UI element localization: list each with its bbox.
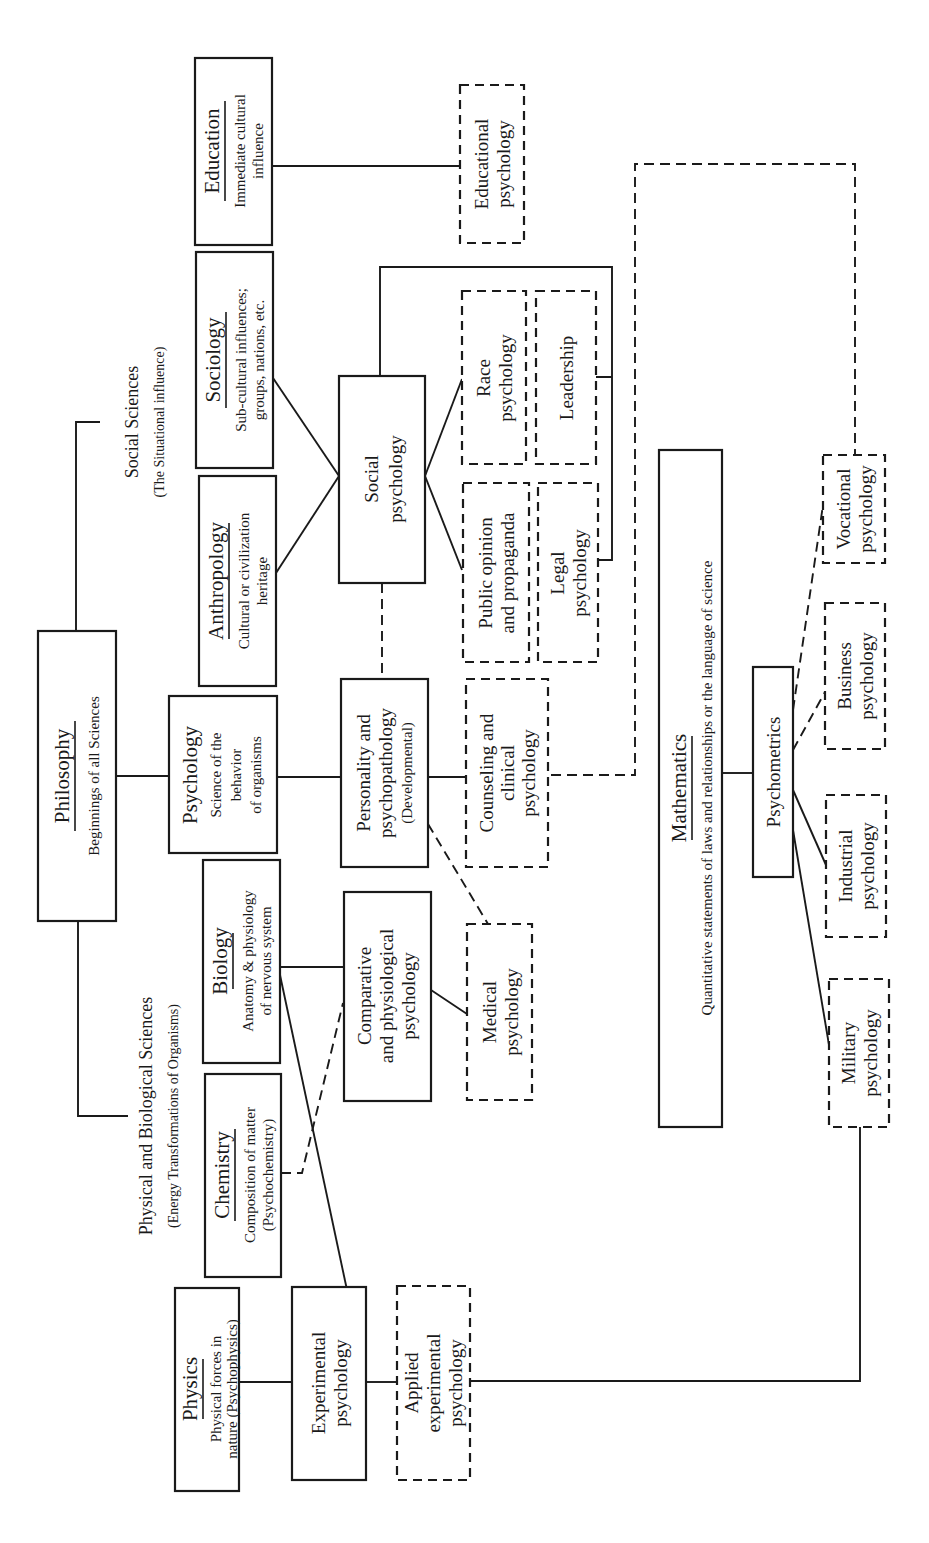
category-subtitle: (The Situational influence) <box>152 346 168 497</box>
node-applied-experimental: Applied experimental psychology <box>397 1286 470 1480</box>
node-label-line: Leadership <box>556 336 577 420</box>
node-description-line: behavior <box>228 749 244 801</box>
node-label-line: psychology <box>501 968 522 1056</box>
edge-psychometrics-industrial <box>793 790 826 865</box>
node-label-line: Comparative <box>354 947 375 1045</box>
node-label-line: psychology <box>445 1339 466 1427</box>
node-label-line: (Developmental) <box>399 722 416 824</box>
node-description: Quantitative statements of laws and rela… <box>699 560 715 1015</box>
node-description-line: Sub-cultural influences; <box>233 288 249 432</box>
node-description-line: Physical forces in <box>208 1335 224 1442</box>
edge-social-psychology-public-opinion <box>425 476 462 570</box>
edge-psychometrics-vocational <box>793 505 823 710</box>
node-comparative: Comparative and physiological psychology <box>344 892 431 1101</box>
node-chemistry: Chemistry Composition of matter (Psychoc… <box>205 1074 281 1277</box>
node-label-line: Social <box>361 455 382 503</box>
edge-philosophy-social-sciences <box>76 422 100 631</box>
node-description-line: Anatomy & physiology <box>240 890 256 1032</box>
node-description-line: influence <box>250 123 266 179</box>
node-description-line: (Psychochemistry) <box>260 1119 277 1231</box>
node-description-line: Immediate cultural <box>232 94 248 208</box>
node-label-line: Legal <box>547 551 568 594</box>
node-description-line: Composition of matter <box>242 1107 258 1243</box>
node-label-line: psychology <box>398 952 419 1040</box>
node-label-line: Military <box>838 1021 859 1084</box>
node-description: Beginnings of all Sciences <box>86 696 102 856</box>
node-title: Anthropology <box>204 522 228 640</box>
node-military: Military psychology <box>829 979 889 1127</box>
node-legal-psychology: Legal psychology <box>538 483 598 662</box>
node-description-line: of organisms <box>248 736 264 814</box>
node-title: Psychology <box>178 726 202 825</box>
node-educational-psychology: Educational psychology <box>460 85 524 243</box>
edge-social-psychology-race <box>425 379 462 476</box>
node-description-line: groups, nations, etc. <box>251 300 267 420</box>
node-social-psychology: Social psychology <box>339 376 425 583</box>
node-business: Business psychology <box>825 603 885 749</box>
category-title: Social Sciences <box>122 366 142 478</box>
node-description-line: heritage <box>254 557 270 606</box>
node-psychometrics: Psychometrics <box>753 667 793 877</box>
node-description-line: Cultural or civilization <box>236 512 252 649</box>
node-vocational: Vocational psychology <box>823 455 885 563</box>
category-subtitle: (Energy Transformations of Organisms) <box>166 1004 182 1228</box>
node-title: Physics <box>178 1357 202 1421</box>
node-title: Sociology <box>201 317 225 403</box>
node-label-line: psychology <box>330 1339 351 1427</box>
node-race-psychology: Race psychology <box>462 291 526 464</box>
edge-psychometrics-business <box>793 692 825 750</box>
node-label-line: Vocational <box>833 469 854 550</box>
node-public-opinion: Public opinion and propaganda <box>463 483 529 662</box>
category-title: Physical and Biological Sciences <box>136 997 156 1235</box>
node-title: Education <box>200 108 224 194</box>
edge-comparative-medical <box>431 990 467 1014</box>
node-description-line: nature (Psychophysics) <box>224 1319 241 1459</box>
node-label-line: psychopathology <box>375 708 396 838</box>
node-title: Chemistry <box>210 1131 234 1219</box>
edge-philosophy-physical-biological <box>78 921 128 1116</box>
node-sociology: Sociology Sub-cultural influences; group… <box>196 252 273 468</box>
node-label-line: Personality and <box>353 714 374 832</box>
node-label-line: psychology <box>495 334 516 422</box>
node-label-line: Psychometrics <box>763 717 784 828</box>
node-psychology: Psychology Science of the behavior of or… <box>169 696 277 853</box>
node-label-line: and physiological <box>376 929 397 1064</box>
node-label-line: and propaganda <box>497 512 518 633</box>
node-medical-psychology: Medical psychology <box>467 924 532 1100</box>
node-label-line: Medical <box>479 981 500 1043</box>
psychology-fields-diagram: Social Sciences (The Situational influen… <box>0 0 929 1543</box>
node-label-line: psychology <box>385 435 406 523</box>
edge-chemistry-comparative <box>281 1003 343 1173</box>
node-label-line: Experimental <box>308 1332 329 1434</box>
node-label-line: Educational <box>471 119 492 210</box>
node-label-line: experimental <box>423 1333 444 1432</box>
node-label-line: psychology <box>518 729 539 817</box>
edge-anthropology-social-psychology <box>276 476 339 573</box>
node-label-line: Business <box>834 642 855 710</box>
node-label-line: Applied <box>401 1352 422 1414</box>
edge-psychometrics-military <box>793 830 829 1045</box>
node-education: Education Immediate cultural influence <box>195 58 272 245</box>
category-social-sciences: Social Sciences (The Situational influen… <box>122 346 168 497</box>
node-label-line: clinical <box>497 745 518 801</box>
node-philosophy: Philosophy Beginnings of all Sciences <box>38 631 116 921</box>
node-label-line: Race <box>473 359 494 397</box>
node-label-line: psychology <box>856 632 877 720</box>
node-physics: Physics Physical forces in nature (Psych… <box>175 1288 241 1491</box>
edge-sociology-social-psychology <box>273 378 339 476</box>
category-physical-biological: Physical and Biological Sciences (Energy… <box>136 997 182 1235</box>
node-label-line: psychology <box>860 1009 881 1097</box>
node-title: Mathematics <box>667 734 691 842</box>
node-label-line: Industrial <box>835 830 856 903</box>
node-label-line: psychology <box>569 529 590 617</box>
edge-applied-military <box>470 1127 860 1381</box>
node-label-line: Counseling and <box>476 713 497 832</box>
node-personality: Personality and psychopathology (Develop… <box>341 679 428 867</box>
node-mathematics: Mathematics Quantitative statements of l… <box>659 450 722 1127</box>
node-industrial: Industrial psychology <box>826 795 886 937</box>
node-experimental: Experimental psychology <box>292 1287 366 1480</box>
node-counseling: Counseling and clinical psychology <box>466 679 548 867</box>
node-title: Philosophy <box>50 728 74 823</box>
node-biology: Biology Anatomy & physiology of nervous … <box>203 860 280 1063</box>
node-label-line: psychology <box>855 465 876 553</box>
